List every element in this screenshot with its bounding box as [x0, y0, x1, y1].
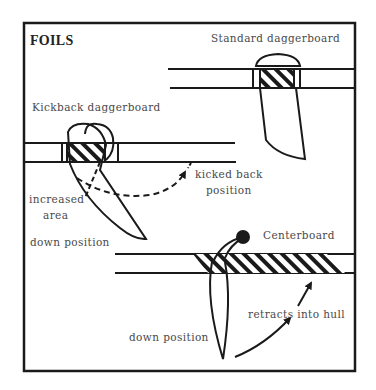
label-kicked-back-position: position [206, 184, 252, 197]
label-kickback-daggerboard: Kickback daggerboard [32, 101, 161, 114]
label-centerboard-down-position: down position [129, 331, 209, 344]
label-retracts-into-hull: retracts into hull [248, 308, 345, 321]
label-centerboard: Centerboard [263, 229, 335, 242]
label-area: area [43, 209, 68, 222]
label-standard-daggerboard: Standard daggerboard [211, 32, 340, 45]
label-increased: increased [29, 193, 84, 206]
diagram-title: FOILS [30, 33, 74, 49]
label-kicked-back: kicked back [195, 168, 263, 181]
label-kickback-down-position: down position [30, 236, 110, 249]
